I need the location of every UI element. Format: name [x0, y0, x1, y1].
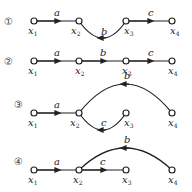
svg-text:x4: x4	[168, 65, 178, 77]
node-x3	[123, 18, 129, 24]
svg-text:x4: x4	[170, 25, 180, 37]
svg-text:c: c	[100, 156, 106, 167]
diagram-4: ④ a b c x1 x2 x3 x4	[14, 134, 178, 186]
svg-text:x2: x2	[75, 65, 85, 77]
svg-text:③: ③	[14, 99, 23, 110]
svg-text:x1: x1	[28, 65, 37, 77]
svg-text:x2: x2	[70, 117, 80, 129]
diagram-3: ③ a b c x1 x2 x3 x4	[14, 70, 178, 130]
svg-text:c: c	[148, 47, 154, 58]
svg-text:a: a	[54, 99, 60, 110]
svg-text:x1: x1	[28, 117, 37, 129]
svg-text:a: a	[54, 47, 60, 58]
svg-text:x4: x4	[168, 174, 178, 186]
svg-text:c: c	[101, 117, 107, 128]
svg-text:x1: x1	[28, 25, 37, 37]
edge-label-b: b	[101, 26, 107, 37]
edge-label-a: a	[54, 7, 60, 18]
svg-text:x2: x2	[73, 174, 83, 186]
diagram-marker: ②	[4, 56, 13, 67]
svg-text:b: b	[100, 47, 106, 58]
svg-text:④: ④	[14, 156, 23, 167]
svg-text:x4: x4	[168, 117, 178, 129]
svg-text:x1: x1	[28, 174, 37, 186]
svg-text:b: b	[124, 134, 130, 145]
signal-flow-graphs: ① a b c x1 x2 x3 x4 ② a b c x1 x2 x3 x4	[0, 0, 192, 192]
node-x4	[169, 18, 175, 24]
diagram-2: ② a b c x1 x2 x3 x4	[4, 47, 178, 77]
svg-text:b: b	[124, 70, 130, 81]
edge-label-c: c	[148, 7, 154, 18]
svg-text:x3: x3	[124, 25, 134, 37]
diagram-1: ① a b c x1 x2 x3 x4	[4, 7, 180, 38]
node-x1	[31, 18, 37, 24]
svg-text:x2: x2	[71, 25, 81, 37]
svg-text:a: a	[54, 156, 60, 167]
node-x2	[76, 18, 82, 24]
svg-text:x3: x3	[124, 117, 134, 129]
diagram-marker: ①	[4, 16, 13, 27]
svg-text:x3: x3	[122, 174, 132, 186]
